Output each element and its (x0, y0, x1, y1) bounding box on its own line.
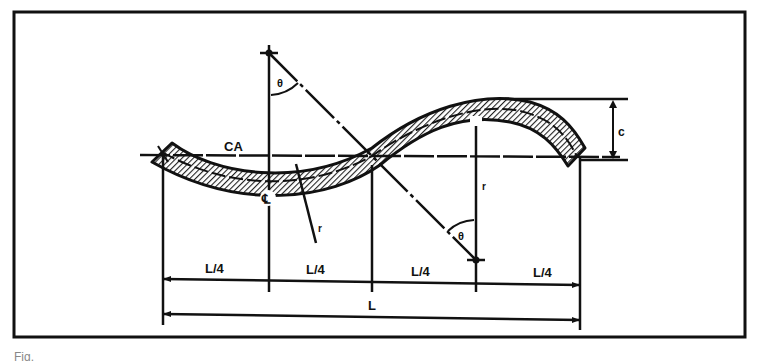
ca-label: CA (224, 139, 243, 154)
upper-angle-arc (271, 83, 298, 95)
radius-right-label: r (482, 181, 486, 192)
quarter-label-2: L/4 (306, 262, 326, 277)
figure-caption: Fig. (14, 350, 34, 361)
quarter-label-4: L/4 (533, 265, 553, 280)
crest-marker (470, 116, 482, 126)
ca-axis-line (140, 155, 620, 157)
total-length-label: L (368, 298, 376, 313)
c-arrow-top (609, 100, 617, 108)
radius-label: r (318, 223, 322, 234)
s-curve-diagram: CA θ θ r r ℄ c L/4 L/4 L/4 L/4 (0, 0, 772, 361)
s-curve-member (152, 99, 585, 196)
quarter-label-1: L/4 (205, 261, 225, 276)
total-dim-line (163, 314, 580, 320)
c-label: c (618, 125, 625, 139)
quarter-label-3: L/4 (411, 264, 431, 279)
centerline-symbol: ℄ (261, 191, 271, 206)
upper-theta-label: θ (277, 77, 283, 89)
lower-theta-label: θ (458, 230, 464, 242)
drawing-frame (14, 12, 745, 337)
